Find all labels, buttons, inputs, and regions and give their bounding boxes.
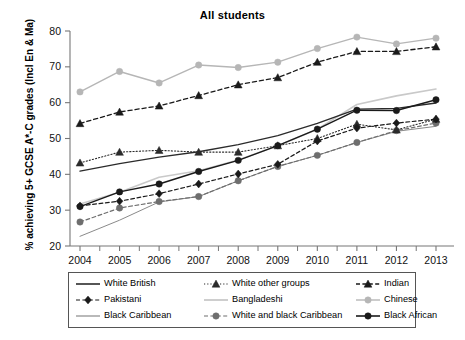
y-tick-label: 70 [49,60,61,72]
data-point-marker [77,203,83,209]
legend-label: White British [104,279,156,288]
legend-label: Indian [384,279,409,288]
x-tick-label: 2004 [68,254,92,266]
data-point-marker [314,126,320,132]
y-ticks: 20304050607080 [49,25,70,252]
series-line [80,126,436,236]
data-point-marker [433,35,439,41]
data-point-marker [365,297,371,303]
data-point-marker [433,97,439,103]
legend-key-icon [203,278,229,290]
legend-item-pakistani[interactable]: Pakistani [75,292,203,308]
data-point-marker [116,205,122,211]
x-tick-label: 2013 [424,254,448,266]
y-tick-label: 80 [49,25,61,37]
legend-key-icon [355,310,381,322]
data-point-marker [354,139,360,145]
y-tick-label: 40 [49,168,61,180]
data-point-marker [213,313,219,319]
legend-key-icon [75,278,101,290]
data-point-marker [116,197,123,205]
data-point-marker [393,107,399,113]
legend-key-icon [75,310,101,322]
y-tick-label: 30 [49,204,61,216]
x-tick-label: 2007 [187,254,211,266]
data-point-marker [195,193,201,199]
series-line [80,119,436,206]
series-black-african [77,97,439,210]
data-point-marker [354,34,360,40]
legend-label: White and black Caribbean [232,311,342,320]
x-tick-label: 2008 [227,254,251,266]
data-point-marker [156,80,162,86]
series-line [80,103,436,171]
series-pakistani [77,115,440,210]
chart-legend: White BritishWhite other groupsIndianPak… [68,272,416,328]
chart-figure: All students % achieving 5+ GCSE A*-C gr… [0,0,465,340]
legend-item-black-caribbean[interactable]: Black Caribbean [75,308,203,324]
legend-item-black-african[interactable]: Black African [355,308,437,324]
legend-label: Bangladeshi [232,295,283,304]
legend-item-white-and-black-caribbean[interactable]: White and black Caribbean [203,308,355,324]
data-point-marker [195,180,202,188]
data-point-marker [314,152,320,158]
legend-item-white-other-groups[interactable]: White other groups [203,276,355,292]
x-ticks: 2004200520062007200820092010201120122013 [68,246,448,266]
data-point-marker [393,119,400,127]
data-point-marker [235,64,241,70]
legend-key-icon [355,294,381,306]
data-point-marker [76,159,84,166]
data-point-marker [275,59,281,65]
series-line [80,47,436,124]
x-tick-label: 2011 [346,254,369,266]
data-point-marker [365,313,371,319]
legend-key-icon [203,294,229,306]
legend-label: Black African [384,311,437,320]
series-black-caribbean [80,126,436,236]
legend-item-bangladeshi[interactable]: Bangladeshi [203,292,355,308]
x-tick-label: 2010 [306,254,330,266]
data-point-marker [156,181,162,187]
series-indian [76,43,440,127]
legend-item-indian[interactable]: Indian [355,276,437,292]
series-bangladeshi [80,89,436,204]
x-tick-label: 2012 [385,254,409,266]
x-tick-label: 2006 [147,254,171,266]
legend-label: White other groups [232,279,310,288]
legend-item-white-british[interactable]: White British [75,276,203,292]
data-point-marker [77,219,83,225]
data-point-marker [432,43,440,50]
data-point-marker [274,74,282,81]
data-point-marker [235,157,241,163]
y-tick-label: 60 [49,96,61,108]
data-point-marker [116,189,122,195]
data-point-marker [116,68,122,74]
data-point-marker [156,190,163,198]
legend-item-chinese[interactable]: Chinese [355,292,437,308]
data-point-marker [314,45,320,51]
data-point-marker [77,89,83,95]
data-point-marker [156,198,162,204]
series-white-and-black-caribbean [77,120,439,225]
data-point-marker [85,296,92,304]
y-tick-label: 50 [49,132,61,144]
legend-key-icon [203,310,229,322]
data-point-marker [353,48,361,55]
data-point-marker [195,62,201,68]
data-point-marker [275,142,281,148]
y-tick-label: 20 [49,240,61,252]
series-line [80,37,436,92]
data-point-marker [212,280,220,287]
data-point-marker [235,170,242,178]
data-point-marker [235,178,241,184]
series-line [80,89,436,204]
series-chinese [77,34,439,95]
legend-label: Chinese [384,295,418,304]
series-line [80,123,436,222]
data-point-marker [314,137,321,145]
series-white-british [80,103,436,171]
legend-label: Black Caribbean [104,311,171,320]
data-point-marker [116,148,124,155]
x-tick-label: 2009 [266,254,290,266]
x-tick-label: 2005 [108,254,132,266]
